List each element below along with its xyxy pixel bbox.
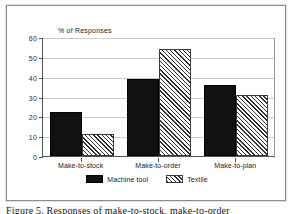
x-tick-label: Make-to-order: [135, 162, 180, 169]
bar-machine-tool-make-to-plan: [204, 85, 236, 156]
legend-label: Textile: [187, 176, 208, 183]
bar-machine-tool-make-to-order: [127, 79, 159, 156]
y-tick-label: 40: [29, 74, 37, 81]
bar-machine-tool-make-to-stock: [50, 112, 82, 156]
plot-area: 0102030405060: [42, 38, 274, 157]
y-tick-label: 50: [29, 54, 37, 61]
legend-label: Machine tool: [107, 176, 148, 183]
y-tick-mark: [39, 137, 43, 138]
y-tick-label: 20: [29, 114, 37, 121]
legend-swatch-textile: [166, 175, 183, 183]
legend-swatch-machine-tool: [86, 175, 103, 183]
bar-chart-figure: % of Responses 0102030405060 Make-to-sto…: [0, 0, 294, 214]
y-tick-label: 10: [29, 134, 37, 141]
y-tick-mark: [39, 98, 43, 99]
x-tick-label: Make-to-plan: [214, 162, 256, 169]
chart-legend: Machine toolTextile: [0, 175, 294, 183]
bar-textile-make-to-stock: [82, 134, 114, 156]
y-tick-label: 60: [29, 35, 37, 42]
y-tick-mark: [39, 58, 43, 59]
legend-item: Machine tool: [86, 175, 148, 183]
x-tick-label: Make-to-stock: [58, 162, 103, 169]
scanned-page: % of Responses 0102030405060 Make-to-sto…: [0, 0, 294, 214]
y-tick-mark: [39, 78, 43, 79]
plot-border-right: [274, 38, 275, 158]
y-tick-mark: [39, 117, 43, 118]
y-tick-label: 0: [33, 154, 37, 161]
legend-item: Textile: [166, 175, 208, 183]
y-tick-mark: [39, 38, 43, 39]
y-tick-mark: [39, 157, 43, 158]
gridline: [43, 38, 274, 39]
y-axis-title: % of Responses: [58, 27, 112, 34]
y-tick-label: 30: [29, 94, 37, 101]
bar-textile-make-to-order: [159, 49, 191, 156]
figure-caption: Figure 5. Responses of make-to-stock, ma…: [6, 205, 288, 214]
bar-textile-make-to-plan: [236, 95, 268, 156]
